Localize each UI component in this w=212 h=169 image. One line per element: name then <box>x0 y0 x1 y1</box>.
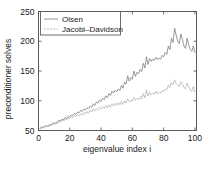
x-tick-label: 40 <box>96 133 106 143</box>
y-axis-label: preconditioner solves <box>3 39 13 119</box>
x-axis-tick-labels: 020406080100 <box>36 133 202 143</box>
legend-label-olsen: Olsen <box>62 15 83 24</box>
legend-label-jacobi-davidson: Jacobi–Davidson <box>62 25 123 34</box>
y-tick-label: 250 <box>20 7 34 17</box>
x-axis-label: eigenvalue index i <box>83 144 151 154</box>
line-chart: 020406080100 50100150200250 eigenvalue i… <box>0 0 212 169</box>
y-tick-label: 200 <box>20 36 34 46</box>
x-tick-label: 20 <box>65 133 75 143</box>
x-tick-label: 60 <box>128 133 138 143</box>
y-tick-label: 50 <box>25 126 35 136</box>
y-axis-tick-labels: 50100150200250 <box>20 7 34 136</box>
y-tick-label: 100 <box>20 96 34 106</box>
x-tick-label: 0 <box>36 133 41 143</box>
chart-figure: 020406080100 50100150200250 eigenvalue i… <box>0 0 212 169</box>
series-line-olsen <box>40 28 195 128</box>
x-tick-label: 100 <box>188 133 202 143</box>
chart-legend: Olsen Jacobi–Davidson <box>41 12 123 36</box>
x-tick-label: 80 <box>159 133 169 143</box>
series-line-jacobi-davidson <box>40 80 195 129</box>
data-series-group <box>40 28 195 129</box>
y-tick-label: 150 <box>20 66 34 76</box>
